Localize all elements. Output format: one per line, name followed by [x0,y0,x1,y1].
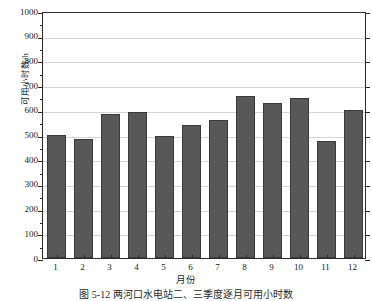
y-axis-tick [38,260,43,261]
x-axis-tick-label: 6 [177,263,205,272]
y-axis-tick-right [365,87,370,88]
y-axis-tick [38,13,43,14]
gridline [43,137,365,138]
y-axis-tick-label: 400 [0,156,38,165]
bar [74,139,93,258]
y-axis-tick-label: 1000 [0,8,38,17]
x-axis-tick [84,255,85,259]
y-axis-tick [38,186,43,187]
x-axis-tick-label: 10 [285,263,313,272]
y-axis-tick-label: 300 [0,180,38,189]
x-axis-tick-label: 8 [231,263,259,272]
x-axis-tick [192,255,193,259]
y-axis-minor-tick [40,248,43,249]
y-axis-tick [38,161,43,162]
gridline [43,87,365,88]
y-axis-tick-label: 600 [0,106,38,115]
bar [182,125,201,258]
x-axis-tick [273,255,274,259]
x-axis-tick-label: 9 [258,263,286,272]
y-axis-tick-right [365,260,370,261]
x-axis-tick-label: 4 [123,263,151,272]
bar [47,135,66,258]
x-axis-tick [354,255,355,259]
x-axis-tick-label: 7 [204,263,232,272]
y-axis-tick [38,235,43,236]
y-axis-minor-tick [40,149,43,150]
y-axis-minor-tick [40,124,43,125]
y-axis-tick-label: 500 [0,131,38,140]
bar [344,110,363,258]
bar [155,136,174,258]
y-axis-tick [38,62,43,63]
y-axis-tick-label: 700 [0,82,38,91]
y-axis-tick-right [365,38,370,39]
x-axis-tick-label: 5 [150,263,178,272]
x-axis-tick-label: 11 [312,263,340,272]
y-axis-minor-tick [40,25,43,26]
x-axis-tick [327,255,328,259]
x-axis-tick-label: 2 [69,263,97,272]
gridline [43,112,365,113]
y-axis-tick-label: 0 [0,255,38,264]
y-axis-tick [38,137,43,138]
bar [290,98,309,258]
y-axis-tick-right [365,235,370,236]
y-axis-tick-right [365,112,370,113]
bar [128,112,147,258]
y-axis-minor-tick [40,50,43,51]
x-axis-title: 月份 [0,275,372,286]
y-axis-tick-label: 900 [0,32,38,41]
y-axis-tick-label: 100 [0,230,38,239]
x-axis-tick-label: 3 [96,263,124,272]
y-axis-tick-right [365,137,370,138]
bar [101,114,120,258]
x-axis-tick [219,255,220,259]
x-axis-tick [165,255,166,259]
y-axis-minor-tick [40,99,43,100]
bar [209,120,228,258]
x-axis-tick [111,255,112,259]
gridline [43,38,365,39]
y-axis-tick-right [365,13,370,14]
y-axis-tick-right [365,211,370,212]
plot-area [42,12,366,259]
x-axis-tick-label: 12 [339,263,367,272]
bar [236,96,255,258]
y-axis-tick [38,211,43,212]
y-axis-minor-tick [40,75,43,76]
y-axis-minor-tick [40,223,43,224]
y-axis-tick-label: 200 [0,205,38,214]
x-axis-tick [57,255,58,259]
y-axis-minor-tick [40,198,43,199]
bar [317,141,336,258]
x-axis-tick-label: 1 [42,263,70,272]
x-axis-tick [300,255,301,259]
gridline [43,62,365,63]
bar [263,103,282,258]
y-axis-tick-right [365,186,370,187]
y-axis-tick-right [365,161,370,162]
y-axis-tick [38,112,43,113]
y-axis-tick [38,38,43,39]
y-axis-tick-right [365,62,370,63]
figure-caption: 图 5-12 两河口水电站二、三季度逐月可用小时数 [0,289,372,301]
x-axis-tick [138,255,139,259]
x-axis-tick [246,255,247,259]
y-axis-tick-label: 800 [0,57,38,66]
y-axis-tick [38,87,43,88]
y-axis-minor-tick [40,174,43,175]
